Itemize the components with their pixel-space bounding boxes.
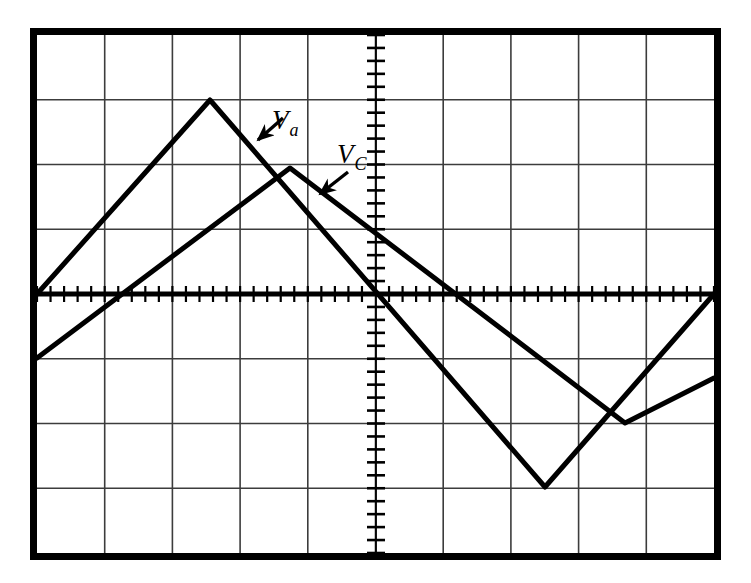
waveform-label-subscript-va: a — [290, 120, 299, 140]
oscilloscope-figure: VaVC — [0, 0, 751, 583]
oscilloscope-screen: VaVC — [0, 0, 751, 583]
waveform-label-subscript-vc: C — [355, 154, 368, 174]
